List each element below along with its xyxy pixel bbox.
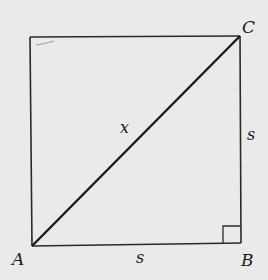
right-angle-marker bbox=[223, 226, 241, 243]
diagram-canvas: C A B x s s bbox=[0, 0, 268, 280]
right-side-s bbox=[240, 36, 241, 243]
top-side bbox=[30, 36, 240, 37]
left-side bbox=[30, 37, 32, 246]
vertex-label-b: B bbox=[240, 250, 254, 270]
diagonal-x bbox=[32, 36, 240, 246]
side-label-bottom-s: s bbox=[136, 248, 144, 267]
bottom-side-s bbox=[32, 243, 241, 246]
square-diagram: C A B x s s bbox=[0, 0, 268, 280]
vertex-label-a: A bbox=[10, 249, 24, 269]
pencil-mark bbox=[36, 41, 54, 45]
side-label-right-s: s bbox=[247, 125, 255, 144]
vertex-label-c: C bbox=[242, 17, 255, 37]
diagonal-label-x: x bbox=[120, 118, 129, 137]
